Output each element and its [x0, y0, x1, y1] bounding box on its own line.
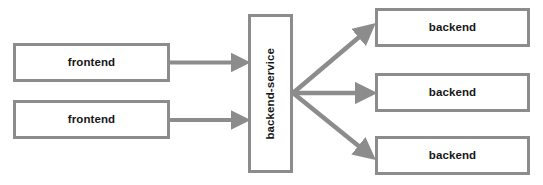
node-backend-2-label: backend: [429, 87, 476, 99]
node-frontend-1-label: frontend: [68, 57, 115, 69]
architecture-diagram: frontend frontend backend-service backen…: [0, 0, 543, 185]
node-backend-3[interactable]: backend: [375, 136, 530, 175]
node-backend-3-label: backend: [429, 150, 476, 162]
node-backend-service[interactable]: backend-service: [248, 14, 293, 173]
node-frontend-2[interactable]: frontend: [13, 100, 170, 139]
node-backend-2[interactable]: backend: [375, 73, 530, 112]
edge-service-to-backend-3: [293, 93, 371, 156]
node-backend-1[interactable]: backend: [375, 8, 530, 47]
node-frontend-2-label: frontend: [68, 114, 115, 126]
node-backend-1-label: backend: [429, 22, 476, 34]
node-frontend-1[interactable]: frontend: [13, 43, 170, 82]
edge-service-to-backend-1: [293, 27, 371, 93]
node-backend-service-label: backend-service: [265, 48, 277, 140]
